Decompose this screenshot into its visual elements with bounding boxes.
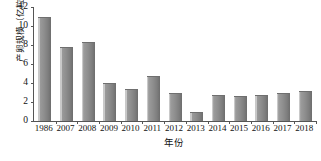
y-tick-mark (31, 7, 34, 8)
bar-chart: 产卵规模（亿粒） 024681012 198620072008200920102… (0, 0, 321, 161)
y-axis-tick-labels: 024681012 (0, 0, 31, 130)
y-tick-mark (31, 83, 34, 84)
bar (38, 17, 51, 121)
bar (147, 76, 160, 121)
y-tick-mark (31, 45, 34, 46)
plot-area (33, 7, 316, 122)
x-axis-title: 年份 (33, 137, 315, 149)
y-tick-mark (31, 64, 34, 65)
x-axis-tick-labels: 1986200720082009201020112012201320142015… (33, 123, 315, 135)
y-tick-label: 2 (2, 97, 28, 107)
bar (234, 96, 247, 121)
y-tick-label: 4 (2, 78, 28, 88)
y-tick-label: 12 (2, 2, 28, 12)
y-tick-label: 6 (2, 59, 28, 69)
bar (212, 95, 225, 121)
bar (103, 83, 116, 121)
y-tick-mark (31, 121, 34, 122)
x-tick-label: 2018 (289, 123, 319, 134)
bar (169, 93, 182, 121)
y-tick-mark (31, 102, 34, 103)
bar (60, 47, 73, 121)
y-tick-label: 10 (2, 21, 28, 31)
y-tick-mark (31, 26, 34, 27)
bar (255, 95, 268, 121)
y-tick-label: 8 (2, 40, 28, 50)
bar (125, 89, 138, 121)
bar (299, 91, 312, 121)
bar (190, 112, 203, 122)
bar (277, 93, 290, 122)
bar (82, 42, 95, 121)
y-tick-label: 0 (2, 116, 28, 126)
